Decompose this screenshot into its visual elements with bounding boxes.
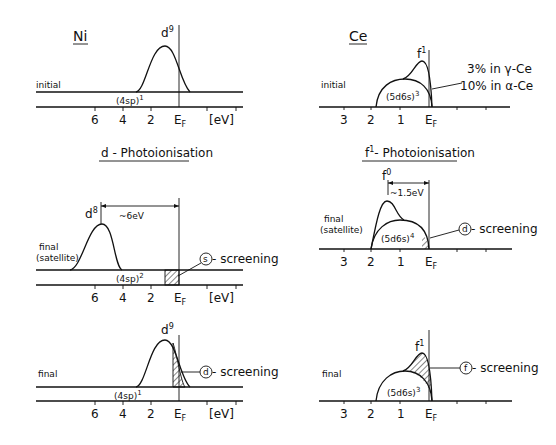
tick-label: 2	[147, 407, 155, 421]
tick-label: 4	[119, 113, 127, 127]
tick-label: 1	[397, 255, 405, 269]
ni-satellite-hatched-region	[165, 270, 179, 285]
tick-label: 1	[397, 113, 405, 127]
screening-pointer	[430, 230, 459, 238]
tick-label: 2	[367, 113, 375, 127]
screening-letter: s	[203, 254, 208, 264]
screening-letter: d	[462, 224, 468, 234]
fermi-label: EF	[174, 291, 187, 307]
ni-title: Ni	[73, 28, 87, 44]
d-photoionisation-title: d - Photoionisation	[101, 146, 213, 160]
ni-initial-d9-peak	[136, 46, 190, 92]
tick-label: 2	[147, 113, 155, 127]
ni-final-band-label: (4sp)1	[114, 389, 142, 401]
ce-initial-state-label: initial	[321, 80, 346, 90]
screening-label: - screening	[472, 361, 539, 375]
tick-label: 3	[340, 407, 348, 421]
tick-label: 3	[340, 113, 348, 127]
f-photoionisation-title: f1- Photoionisation	[365, 145, 475, 160]
ni-satellite-d8-peak	[70, 224, 122, 270]
ce-title: Ce	[349, 28, 367, 44]
fermi-label: EF	[425, 255, 438, 271]
ce-note-alpha: 10% in α-Ce	[460, 79, 533, 93]
ni-final-peak-label: d9	[161, 322, 174, 337]
tick-label: 6	[91, 407, 99, 421]
screening-letter: d	[203, 367, 209, 377]
tick-label: 1	[397, 407, 405, 421]
ni-satellite-peak-label: d8	[85, 206, 98, 221]
screening-letter: f	[464, 363, 468, 373]
fermi-label: EF	[425, 113, 438, 129]
photoemission-diagram: Ni initial 6 4 2 EF [eV] d9 (4sp)1 Ce in…	[0, 0, 556, 445]
fermi-label: EF	[174, 113, 187, 129]
ce-initial-panel: Ce initial 3 2 1 EF f1 (5d6s)3 3% in γ-C…	[319, 28, 533, 129]
tick-label: 4	[119, 407, 127, 421]
tick-label: 3	[340, 255, 348, 269]
ce-satellite-band-label: (5d6s)4	[381, 232, 415, 244]
state-label: (satellite)	[36, 253, 79, 263]
ce-satellite-peak-label: f0	[382, 168, 391, 183]
tick-label: 2	[147, 291, 155, 305]
ce-final-peak-label: f1	[415, 339, 424, 354]
state-label: final	[322, 369, 341, 379]
ce-note-gamma: 3% in γ-Ce	[467, 62, 532, 76]
screening-label: - screening	[212, 365, 279, 379]
tick-label: 4	[119, 291, 127, 305]
ni-separation-label: ~6eV	[119, 211, 145, 221]
unit-label: [eV]	[209, 113, 234, 127]
ce-final-band-label: (5d6s)3	[387, 386, 420, 398]
state-label: (satellite)	[320, 225, 363, 235]
unit-label: [eV]	[209, 291, 234, 305]
tick-label: 6	[91, 291, 99, 305]
section-titles: d - Photoionisation f1- Photoionisation	[99, 145, 475, 161]
state-label: final	[324, 214, 343, 224]
ce-initial-band-label: (5d6s)3	[386, 90, 419, 102]
ni-initial-peak-label: d9	[161, 25, 174, 40]
state-label: final	[38, 369, 57, 379]
ce-final-panel: final 3 2 1 EF f1 (5d6s)3 f - screening	[319, 330, 539, 423]
ni-satellite-band-label: (4sp)2	[116, 272, 144, 284]
ce-satellite-panel: final (satellite) 3 2 1 EF ~1.5eV f0 (5d…	[319, 168, 538, 271]
ce-initial-note-pointer	[432, 83, 462, 89]
fermi-label: EF	[174, 407, 187, 423]
ni-satellite-panel: final (satellite) 6 4 2 EF [eV] ~6eV d8 …	[36, 198, 279, 307]
tick-label: 6	[91, 113, 99, 127]
tick-label: 2	[367, 407, 375, 421]
ni-initial-state-label: initial	[36, 80, 61, 90]
fermi-label: EF	[425, 407, 438, 423]
ni-initial-panel: Ni initial 6 4 2 EF [eV] d9 (4sp)1	[36, 25, 243, 129]
screening-label: - screening	[212, 252, 279, 266]
ce-separation-label: ~1.5eV	[390, 188, 424, 198]
state-label: final	[39, 242, 58, 252]
ce-initial-peak-label: f1	[417, 46, 426, 61]
tick-label: 2	[367, 255, 375, 269]
unit-label: [eV]	[209, 407, 234, 421]
ni-initial-band-label: (4sp)1	[116, 94, 144, 106]
screening-label: - screening	[471, 222, 538, 236]
ni-final-panel: final 6 4 2 EF [eV] d9 (4sp)1 d - screen…	[36, 322, 279, 423]
